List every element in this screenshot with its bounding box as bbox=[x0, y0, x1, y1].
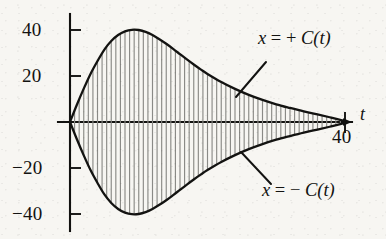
y-tick-label-40: 40 bbox=[22, 19, 42, 41]
y-tick-label-20: 20 bbox=[22, 65, 42, 87]
resonance-envelope-figure: 40 20 −20 −40 40 t x = + C(t) x = − C(t) bbox=[0, 0, 386, 239]
lower-annotation-equals: = bbox=[275, 180, 285, 200]
x-tick-label-40: 40 bbox=[332, 126, 352, 148]
upper-annotation-sign: + bbox=[286, 28, 296, 48]
lower-envelope-annotation: x = − C(t) bbox=[262, 180, 335, 201]
y-tick-label-minus-40: −40 bbox=[12, 203, 43, 225]
upper-annotation-func: C bbox=[301, 28, 313, 48]
upper-envelope-annotation: x = + C(t) bbox=[258, 28, 331, 49]
lower-annotation-arg: (t) bbox=[317, 180, 334, 200]
lower-annotation-var: x bbox=[262, 180, 270, 200]
y-tick-label-minus-20: −20 bbox=[12, 157, 43, 179]
lower-annotation-sign: − bbox=[290, 180, 300, 200]
upper-annotation-var: x bbox=[258, 28, 266, 48]
lower-annotation-func: C bbox=[305, 180, 317, 200]
x-axis-label: t bbox=[360, 104, 365, 125]
upper-annotation-leader bbox=[236, 62, 266, 97]
upper-annotation-arg: (t) bbox=[313, 28, 330, 48]
upper-annotation-equals: = bbox=[271, 28, 281, 48]
